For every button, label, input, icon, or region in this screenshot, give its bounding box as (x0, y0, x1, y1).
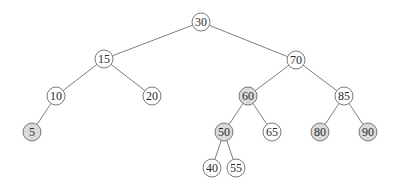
tree-nodes: 301570102060855506580904055 (23, 13, 377, 177)
edge-70-85 (303, 65, 337, 90)
edge-50-55 (227, 141, 233, 160)
edge-70-60 (255, 65, 289, 90)
tree-node-15: 15 (95, 50, 113, 68)
tree-node-30: 30 (192, 13, 210, 31)
node-label: 20 (146, 89, 158, 103)
tree-node-50: 50 (215, 123, 233, 141)
edge-50-40 (215, 141, 221, 160)
node-label: 10 (50, 89, 62, 103)
node-label: 60 (242, 89, 254, 103)
edge-60-65 (253, 103, 267, 124)
edge-60-50 (229, 103, 243, 124)
edge-30-15 (112, 25, 192, 56)
tree-node-55: 55 (227, 159, 245, 177)
node-label: 15 (98, 52, 110, 66)
node-label: 30 (195, 15, 207, 29)
tree-node-80: 80 (311, 123, 329, 141)
binary-tree-diagram: 301570102060855506580904055 (0, 0, 397, 189)
tree-node-85: 85 (335, 87, 353, 105)
edge-30-70 (209, 25, 287, 56)
node-label: 65 (266, 125, 278, 139)
node-label: 70 (290, 53, 302, 67)
edge-15-10 (63, 64, 97, 90)
node-label: 90 (362, 125, 374, 139)
node-label: 85 (338, 89, 350, 103)
node-label: 5 (29, 125, 35, 139)
tree-node-40: 40 (203, 159, 221, 177)
tree-node-70: 70 (287, 51, 305, 69)
tree-node-65: 65 (263, 123, 281, 141)
node-label: 55 (230, 161, 242, 175)
node-label: 80 (314, 125, 326, 139)
edge-10-5 (37, 103, 51, 124)
tree-node-10: 10 (47, 87, 65, 105)
node-label: 40 (206, 161, 218, 175)
tree-node-90: 90 (359, 123, 377, 141)
edge-85-90 (349, 103, 363, 124)
tree-node-20: 20 (143, 87, 161, 105)
node-label: 50 (218, 125, 230, 139)
edge-15-20 (111, 64, 145, 90)
edge-85-80 (325, 103, 339, 124)
tree-node-5: 5 (23, 123, 41, 141)
tree-node-60: 60 (239, 87, 257, 105)
